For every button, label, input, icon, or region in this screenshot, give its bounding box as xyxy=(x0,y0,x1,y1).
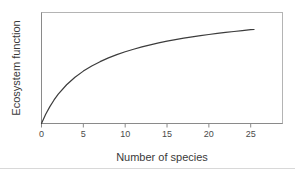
x-tick-label: 10 xyxy=(120,129,130,139)
x-axis-tick-labels: 0510152025 xyxy=(39,129,256,139)
y-axis-title: Ecosystem function xyxy=(10,20,22,115)
x-tick-label: 20 xyxy=(204,129,214,139)
chart-canvas: 0510152025 Number of species Ecosystem f… xyxy=(0,0,295,169)
ecosystem-function-curve xyxy=(42,29,255,123)
x-tick-label: 0 xyxy=(39,129,44,139)
chart-figure: 0510152025 Number of species Ecosystem f… xyxy=(0,0,295,169)
x-tick-label: 25 xyxy=(246,129,256,139)
x-axis-title: Number of species xyxy=(116,151,208,163)
x-axis-ticks xyxy=(42,124,251,128)
x-tick-label: 15 xyxy=(162,129,172,139)
plot-frame xyxy=(42,13,283,124)
x-tick-label: 5 xyxy=(81,129,86,139)
